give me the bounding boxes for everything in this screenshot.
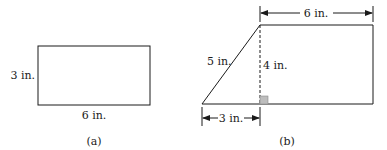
width-label-a: 6 in. xyxy=(82,109,107,122)
caption-b: (b) xyxy=(279,135,295,148)
right-angle-marker xyxy=(260,96,268,104)
base-offset-label: 3 in. xyxy=(219,112,244,125)
figure-a: 3 in. 6 in. (a) xyxy=(10,46,150,148)
height-label-a: 3 in. xyxy=(10,69,35,82)
top-width-label: 6 in. xyxy=(304,7,329,20)
height-label-b: 4 in. xyxy=(263,59,288,72)
slant-side-label: 5 in. xyxy=(207,55,232,68)
diagram-canvas: 3 in. 6 in. (a) 6 in. 5 in. 4 in. 3 in. … xyxy=(0,0,387,150)
rectangle-shape xyxy=(38,46,150,105)
figure-b: 6 in. 5 in. 4 in. 3 in. (b) xyxy=(202,6,373,148)
caption-a: (a) xyxy=(86,135,101,148)
